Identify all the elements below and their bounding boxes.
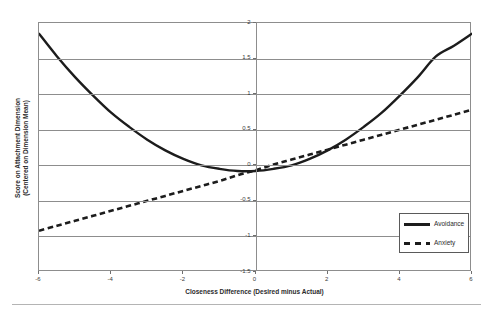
x-tick-mark xyxy=(38,271,39,274)
gridline-y-1_5 xyxy=(39,59,470,60)
y-tick-mark xyxy=(253,164,256,165)
chart-legend: Avoidance Anxiety xyxy=(399,213,469,253)
gridline-y-1 xyxy=(39,94,470,95)
y-tick-mark xyxy=(253,235,256,236)
x-tick-label: -4 xyxy=(100,276,120,283)
x-tick-mark xyxy=(110,271,111,274)
y-tick-mark xyxy=(253,58,256,59)
y-tick-label: 1 xyxy=(229,90,251,97)
x-axis-title: Closeness Difference (Desired minus Actu… xyxy=(38,288,471,295)
gridline-y-neg0_5 xyxy=(39,201,470,202)
x-tick-label: 4 xyxy=(389,276,409,283)
y-axis-title-line-2: (Centered on Dimension Mean) xyxy=(22,58,30,238)
legend-item-anxiety: Anxiety xyxy=(400,235,468,251)
y-tick-label: 0 xyxy=(229,161,251,168)
y-tick-label: 2 xyxy=(229,19,251,26)
chart-figure: Score on Attachment Dimension (Centered … xyxy=(0,0,493,314)
legend-label-anxiety: Anxiety xyxy=(434,238,455,247)
x-tick-mark xyxy=(327,271,328,274)
legend-swatch-dashed-icon xyxy=(404,242,430,245)
y-tick-mark xyxy=(253,200,256,201)
gridline-y-0_5 xyxy=(39,130,470,131)
x-tick-label: 6 xyxy=(461,276,481,283)
x-tick-label: 0 xyxy=(245,276,265,283)
x-tick-mark xyxy=(399,271,400,274)
y-tick-label: -0.5 xyxy=(229,196,251,203)
y-tick-label: -1.5 xyxy=(229,268,251,275)
y-tick-mark xyxy=(253,129,256,130)
legend-item-avoidance: Avoidance xyxy=(400,216,468,232)
y-tick-mark xyxy=(253,93,256,94)
footer-divider xyxy=(12,304,481,305)
page-header-artifact xyxy=(128,1,378,6)
y-axis-title: Score on Attachment Dimension (Centered … xyxy=(14,58,30,238)
y-axis-title-line-1: Score on Attachment Dimension xyxy=(14,58,22,238)
x-tick-label: 2 xyxy=(317,276,337,283)
legend-label-avoidance: Avoidance xyxy=(434,219,464,228)
x-tick-label: -2 xyxy=(172,276,192,283)
x-tick-mark xyxy=(255,271,256,274)
gridline-y-0 xyxy=(39,165,470,166)
x-tick-mark xyxy=(182,271,183,274)
y-axis-line xyxy=(256,23,257,270)
y-tick-label: 1.5 xyxy=(229,54,251,61)
legend-swatch-solid-icon xyxy=(404,223,430,226)
x-tick-label: -6 xyxy=(28,276,48,283)
y-tick-mark xyxy=(253,22,256,23)
x-tick-mark xyxy=(471,271,472,274)
y-tick-label: -1 xyxy=(229,232,251,239)
y-tick-label: 0.5 xyxy=(229,125,251,132)
